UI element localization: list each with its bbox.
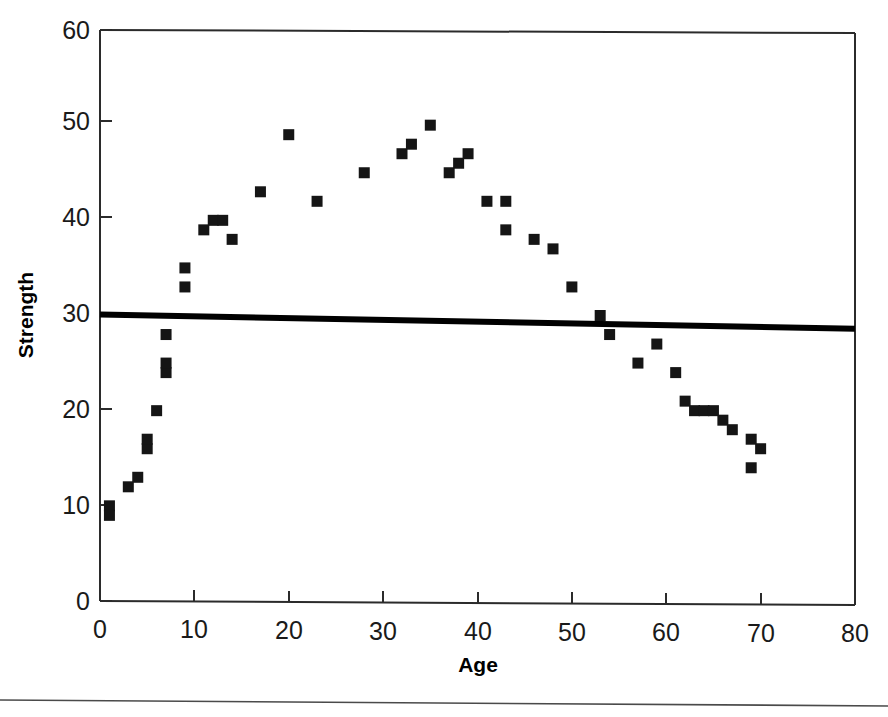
- data-point: [755, 443, 766, 454]
- data-point: [179, 281, 190, 292]
- data-point: [132, 472, 143, 483]
- x-axis-title: Age: [458, 653, 498, 676]
- data-point: [161, 367, 172, 378]
- x-tick-label-50: 50: [558, 618, 586, 646]
- scatter-plot: 0 10 20 30 40 50 60 0 10 20 30 40 50 60: [0, 0, 888, 717]
- data-point: [651, 339, 662, 350]
- y-tick-label-30: 30: [62, 299, 90, 327]
- data-point: [632, 358, 643, 369]
- y-axis-title: Strength: [14, 272, 37, 358]
- data-point: [717, 415, 728, 426]
- data-point: [444, 167, 455, 178]
- y-tick-label-0: 0: [76, 587, 90, 615]
- data-point: [312, 196, 323, 207]
- data-point: [500, 196, 511, 207]
- regression-trend-line: [100, 315, 855, 329]
- data-point: [708, 405, 719, 416]
- data-point: [463, 148, 474, 159]
- x-tick-label-80: 80: [841, 619, 869, 647]
- data-point: [142, 434, 153, 445]
- figure-container: 0 10 20 30 40 50 60 0 10 20 30 40 50 60: [0, 0, 888, 717]
- data-point: [680, 396, 691, 407]
- footer-divider: [0, 700, 888, 706]
- data-point: [566, 281, 577, 292]
- data-point: [151, 405, 162, 416]
- y-tick-label-20: 20: [62, 395, 90, 423]
- data-point: [746, 462, 757, 473]
- y-tick-label-50: 50: [62, 107, 90, 135]
- data-point: [481, 196, 492, 207]
- y-tick-label-40: 40: [62, 203, 90, 231]
- data-point: [595, 310, 606, 321]
- data-point: [670, 367, 681, 378]
- top-frame-line: [100, 30, 855, 33]
- y-tick-label-60: 60: [62, 16, 90, 44]
- data-point: [406, 139, 417, 150]
- data-point: [227, 234, 238, 245]
- data-point: [359, 167, 370, 178]
- data-point: [161, 358, 172, 369]
- data-point: [161, 329, 172, 340]
- data-point: [217, 215, 228, 226]
- x-tick-label-30: 30: [369, 617, 397, 645]
- x-tick-label-20: 20: [275, 616, 303, 644]
- data-point: [529, 234, 540, 245]
- data-point: [104, 500, 115, 511]
- data-point: [198, 224, 209, 235]
- data-point: [689, 405, 700, 416]
- y-tick-label-10: 10: [62, 491, 90, 519]
- data-point: [208, 215, 219, 226]
- x-tick-label-60: 60: [652, 618, 680, 646]
- x-axis-tick-labels: 0 10 20 30 40 50 60 70 80: [93, 615, 869, 647]
- data-point: [142, 443, 153, 454]
- data-point: [255, 186, 266, 197]
- data-point: [179, 262, 190, 273]
- data-point: [604, 329, 615, 340]
- data-point: [727, 424, 738, 435]
- data-point: [453, 158, 464, 169]
- data-point: [123, 481, 134, 492]
- data-point: [283, 129, 294, 140]
- x-tick-label-70: 70: [747, 619, 775, 647]
- data-point: [548, 243, 559, 254]
- data-point: [699, 405, 710, 416]
- data-point: [746, 434, 757, 445]
- x-tick-label-0: 0: [93, 615, 107, 643]
- data-point: [397, 148, 408, 159]
- data-point: [500, 224, 511, 235]
- y-axis-tick-labels: 0 10 20 30 40 50 60: [62, 16, 90, 615]
- data-point: [425, 120, 436, 131]
- x-tick-label-10: 10: [180, 615, 208, 643]
- x-tick-label-40: 40: [464, 617, 492, 645]
- data-point: [104, 510, 115, 521]
